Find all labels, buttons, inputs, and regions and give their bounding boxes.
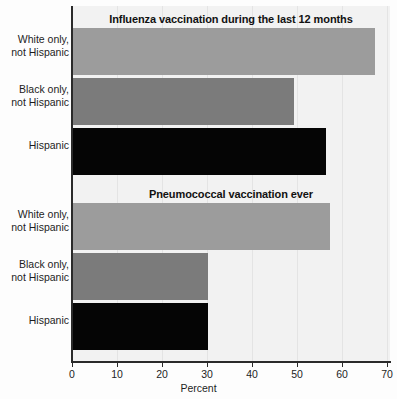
x-tick-mark-30	[207, 362, 208, 367]
x-tick-label-50: 50	[282, 368, 312, 380]
x-tick-label-0: 0	[57, 368, 87, 380]
bar-influenza-black-only[interactable]	[72, 78, 294, 125]
category-label-line2: not Hispanic	[1, 46, 69, 59]
panel1-title: Influenza vaccination during the last 12…	[72, 13, 390, 25]
category-label-line1: Black only,	[1, 258, 69, 271]
x-tick-label-10: 10	[102, 368, 132, 380]
x-tick-mark-70	[387, 362, 388, 367]
x-tick-mark-40	[252, 362, 253, 367]
x-axis-line	[71, 361, 391, 363]
x-tick-label-40: 40	[237, 368, 267, 380]
x-axis-title: Percent	[0, 382, 397, 394]
category-label-line2: not Hispanic	[1, 271, 69, 284]
x-tick-mark-0	[72, 362, 73, 367]
category-label-influenza-white-only: White only, not Hispanic	[1, 33, 69, 58]
y-axis-line	[71, 6, 73, 362]
category-label-line1: White only,	[1, 33, 69, 46]
panel2-title: Pneumococcal vaccination ever	[72, 188, 390, 200]
x-tick-label-30: 30	[192, 368, 222, 380]
x-tick-mark-60	[342, 362, 343, 367]
category-label-line1: Hispanic	[1, 139, 69, 152]
bar-influenza-white-only[interactable]	[72, 28, 375, 75]
bar-pneumococcal-hispanic[interactable]	[72, 303, 208, 350]
x-tick-mark-20	[162, 362, 163, 367]
bar-pneumococcal-black-only[interactable]	[72, 253, 208, 300]
x-tick-label-70: 70	[372, 368, 397, 380]
plot-area: Influenza vaccination during the last 12…	[72, 6, 390, 361]
x-tick-label-20: 20	[147, 368, 177, 380]
category-label-line2: not Hispanic	[1, 96, 69, 109]
x-tick-mark-50	[297, 362, 298, 367]
category-label-line1: Black only,	[1, 83, 69, 96]
gridline-70	[387, 6, 388, 361]
bar-pneumococcal-white-only[interactable]	[72, 203, 330, 250]
category-label-pneumococcal-black-only: Black only, not Hispanic	[1, 258, 69, 283]
category-label-line1: Hispanic	[1, 314, 69, 327]
bar-influenza-hispanic[interactable]	[72, 128, 326, 175]
x-tick-mark-10	[117, 362, 118, 367]
bar-chart-figure: Influenza vaccination during the last 12…	[0, 0, 397, 399]
category-label-influenza-black-only: Black only, not Hispanic	[1, 83, 69, 108]
category-label-line2: not Hispanic	[1, 221, 69, 234]
x-tick-label-60: 60	[327, 368, 357, 380]
category-label-pneumococcal-hispanic: Hispanic	[1, 314, 69, 327]
category-label-pneumococcal-white-only: White only, not Hispanic	[1, 208, 69, 233]
category-label-influenza-hispanic: Hispanic	[1, 139, 69, 152]
category-label-line1: White only,	[1, 208, 69, 221]
